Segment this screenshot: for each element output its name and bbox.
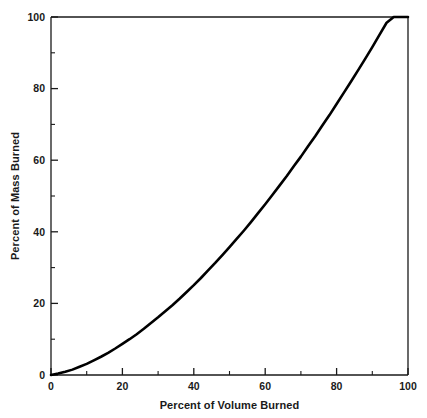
- chart-figure: 020406080100 020406080100 Percent of Vol…: [0, 0, 427, 418]
- y-tick-label: 0: [39, 369, 45, 381]
- y-tick-label: 80: [33, 82, 45, 94]
- y-tick-label: 100: [27, 11, 45, 23]
- y-tick-label: 40: [33, 226, 45, 238]
- y-tick-label: 60: [33, 154, 45, 166]
- x-tick-label: 80: [331, 380, 343, 392]
- x-tick-label: 0: [48, 380, 54, 392]
- x-tick-label: 20: [117, 380, 129, 392]
- y-axis-title: Percent of Mass Burned: [9, 132, 21, 260]
- y-tick-label: 20: [33, 297, 45, 309]
- x-tick-label: 60: [259, 380, 271, 392]
- x-tick-label: 40: [188, 380, 200, 392]
- x-tick-label: 100: [399, 380, 417, 392]
- x-axis-title: Percent of Volume Burned: [160, 399, 300, 411]
